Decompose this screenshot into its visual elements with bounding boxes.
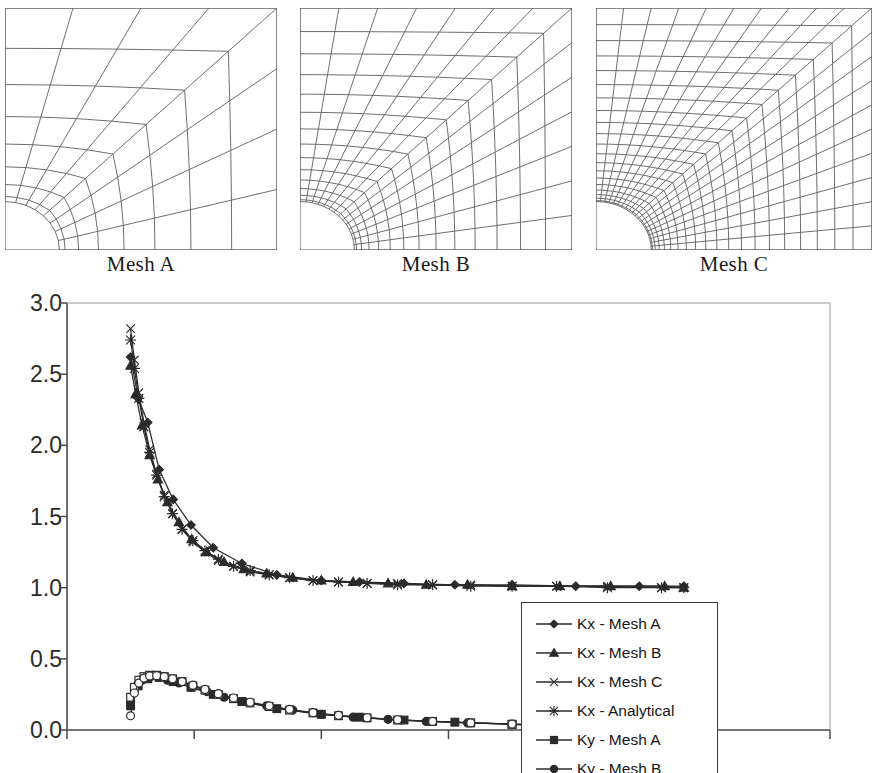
mesh-b-caption: Mesh B xyxy=(300,252,572,277)
legend-label: Kx - Mesh B xyxy=(575,644,661,662)
legend-item: Kx - Mesh B xyxy=(522,638,717,667)
legend-marker-asterisk-icon xyxy=(533,701,575,721)
mesh-c-caption: Mesh C xyxy=(596,252,872,277)
legend-item: Ky - Mesh A xyxy=(522,725,717,754)
legend-marker-circle-filled-icon xyxy=(533,759,575,773)
series-kx-analytical xyxy=(125,334,689,593)
legend-item: Ky - Mesh B xyxy=(522,754,717,773)
series-kx-mesh-b xyxy=(126,361,688,591)
series-kx-mesh-c xyxy=(126,324,688,591)
chart-legend: Kx - Mesh AKx - Mesh BKx - Mesh CKx - An… xyxy=(521,602,718,773)
legend-marker-triangle-filled-icon xyxy=(533,643,575,663)
legend-marker-square-filled-icon xyxy=(533,730,575,750)
stress-concentration-chart: 0.00.51.01.52.02.53.0 024681012 K y Kx K… xyxy=(0,290,872,773)
mesh-b-drawing xyxy=(300,8,572,254)
legend-item: Kx - Mesh A xyxy=(522,609,717,638)
legend-marker-x-cross-icon xyxy=(533,672,575,692)
mesh-panel-group: Mesh A Mesh B Mesh C xyxy=(0,0,872,290)
mesh-a-drawing xyxy=(5,8,277,254)
mesh-a-caption: Mesh A xyxy=(5,252,277,277)
mesh-c-drawing xyxy=(596,8,872,254)
legend-marker-diamond-filled-icon xyxy=(533,614,575,634)
legend-item: Kx - Mesh C xyxy=(522,667,717,696)
legend-item: Kx - Analytical xyxy=(522,696,717,725)
legend-label: Ky - Mesh B xyxy=(575,760,661,773)
legend-label: Ky - Mesh A xyxy=(575,731,661,749)
legend-label: Kx - Mesh C xyxy=(575,673,662,691)
legend-label: Kx - Analytical xyxy=(575,702,674,720)
legend-label: Kx - Mesh A xyxy=(575,615,661,633)
